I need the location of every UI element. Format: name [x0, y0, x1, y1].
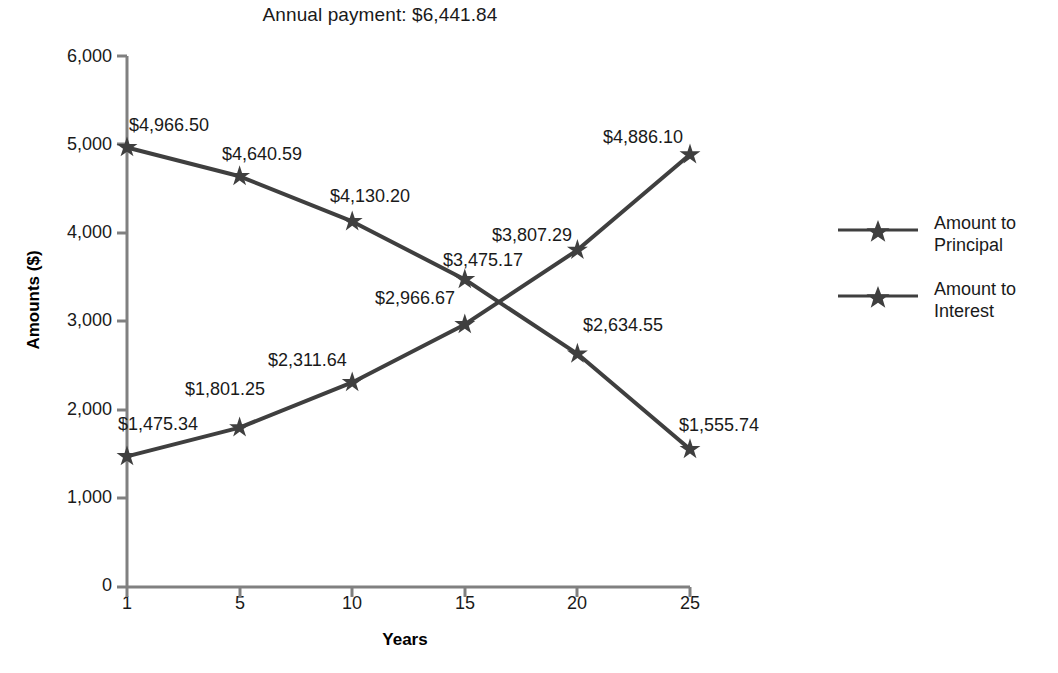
legend-marker-interest-icon — [836, 283, 920, 309]
legend-label-interest: Amount to Interest — [934, 278, 1016, 322]
legend-item-principal[interactable]: Amount to Principal — [836, 212, 1046, 256]
legend-label-principal: Amount to Principal — [934, 212, 1016, 256]
legend-marker-principal-icon — [836, 217, 920, 243]
point-label-interest-15: $3,475.17 — [443, 250, 523, 271]
point-label-principal-20: $3,807.29 — [492, 225, 572, 246]
chart-legend: Amount to Principal Amount to Interest — [836, 212, 1046, 344]
legend-label-interest-line2: Interest — [934, 301, 994, 321]
point-label-principal-5: $1,801.25 — [185, 379, 265, 400]
legend-label-principal-line1: Amount to — [934, 213, 1016, 233]
point-label-principal-1: $1,475.34 — [118, 414, 198, 435]
legend-item-interest[interactable]: Amount to Interest — [836, 278, 1046, 322]
point-label-interest-5: $4,640.59 — [222, 144, 302, 165]
legend-label-interest-line1: Amount to — [934, 279, 1016, 299]
point-label-interest-10: $4,130.20 — [330, 186, 410, 207]
point-label-interest-20: $2,634.55 — [583, 315, 663, 336]
point-label-principal-15: $2,966.67 — [375, 288, 455, 309]
point-label-interest-1: $4,966.50 — [129, 115, 209, 136]
point-label-principal-10: $2,311.64 — [268, 350, 347, 371]
point-label-interest-25: $1,555.74 — [679, 415, 759, 436]
line-chart: Annual payment: $6,441.84 Amounts ($) Ye… — [0, 0, 1058, 673]
legend-label-principal-line2: Principal — [934, 235, 1003, 255]
point-label-principal-25: $4,886.10 — [603, 127, 683, 148]
data-point-marker — [342, 371, 363, 391]
